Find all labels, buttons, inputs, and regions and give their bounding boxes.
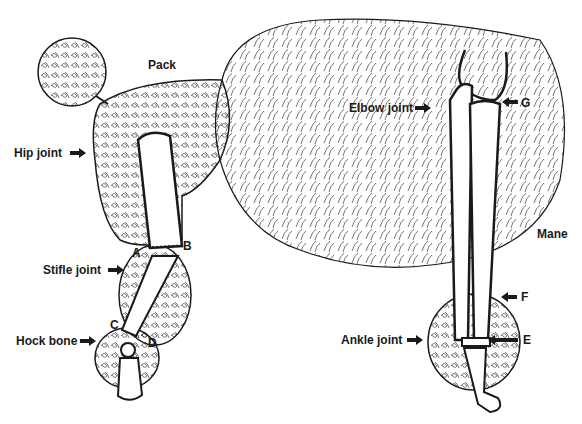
label-d: D xyxy=(148,336,157,350)
label-a: A xyxy=(132,246,141,260)
arrow-right-icon xyxy=(407,335,423,345)
front-forearm-bone xyxy=(450,84,472,340)
label-mane: Mane xyxy=(537,227,568,241)
label-c: C xyxy=(110,318,119,332)
label-e: E xyxy=(523,333,531,347)
label-f: F xyxy=(521,290,528,304)
arrow-right-icon xyxy=(70,148,86,158)
arrow-left-icon xyxy=(501,292,517,302)
rear-foot-bone xyxy=(118,358,142,400)
label-hip-joint: Hip joint xyxy=(14,146,62,160)
label-hock-bone: Hock bone xyxy=(16,334,77,348)
tail-pompom xyxy=(38,38,106,106)
arrow-left-icon xyxy=(502,97,518,107)
label-elbow-joint: Elbow joint xyxy=(349,101,413,115)
label-stifle-joint: Stifle joint xyxy=(43,263,101,277)
arrow-left-icon xyxy=(488,335,518,345)
label-ankle-joint: Ankle joint xyxy=(341,333,402,347)
arrow-right-icon xyxy=(108,265,124,275)
label-b: B xyxy=(183,239,192,253)
label-pack: Pack xyxy=(148,58,176,72)
poodle-anatomy-drawing xyxy=(0,0,582,424)
mane-shape xyxy=(215,19,564,267)
label-g: G xyxy=(521,96,530,110)
arrow-right-icon xyxy=(415,103,431,113)
arrow-right-icon xyxy=(80,336,96,346)
